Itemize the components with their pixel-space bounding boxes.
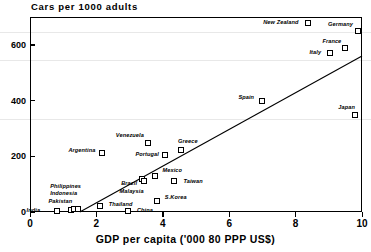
data-point-label: S.Korea <box>165 194 187 200</box>
x-tick-label: 2 <box>86 218 106 229</box>
y-tick-mark <box>30 44 35 45</box>
x-tick-label: 4 <box>153 218 173 229</box>
x-tick-mark <box>362 212 363 217</box>
x-tick-mark <box>96 212 97 217</box>
data-point-marker <box>327 50 333 56</box>
data-point-marker <box>171 178 177 184</box>
x-tick-label: 6 <box>219 218 239 229</box>
data-point-label: Indonesia <box>50 190 77 196</box>
data-point-marker <box>152 173 158 179</box>
y-tick-label: 0 <box>0 207 26 217</box>
y-tick-label: 400 <box>0 96 26 106</box>
x-tick-mark <box>229 212 230 217</box>
data-point-label: Pakistan <box>49 198 73 204</box>
data-point-marker <box>355 28 361 34</box>
data-point-label: Malaysia <box>120 188 144 194</box>
data-point-marker <box>162 152 168 158</box>
data-point-label: Thailand <box>109 201 133 207</box>
data-point-marker <box>178 147 184 153</box>
y-tick-label: 200 <box>0 151 26 161</box>
x-tick-label: 10 <box>352 218 371 229</box>
data-point-label: Philippines <box>50 183 81 189</box>
x-tick-label: 0 <box>20 218 40 229</box>
data-point-marker <box>54 208 60 214</box>
x-tick-mark <box>162 212 163 217</box>
data-point-label: Greece <box>178 138 198 144</box>
data-point-marker <box>125 208 131 214</box>
data-point-marker <box>342 45 348 51</box>
data-point-marker <box>145 140 151 146</box>
y-tick-mark <box>30 156 35 157</box>
data-point-label: Spain <box>238 94 254 100</box>
data-point-marker <box>259 98 265 104</box>
x-axis-title: GDP per capita ('000 80 PPP US$) <box>0 233 371 245</box>
data-point-label: India <box>27 207 41 213</box>
data-point-label: Brazil <box>121 180 137 186</box>
x-tick-mark <box>30 212 31 217</box>
data-point-label: Italy <box>309 49 321 55</box>
data-point-marker <box>154 198 160 204</box>
data-point-marker <box>99 150 105 156</box>
data-point-label: Taiwan <box>183 178 202 184</box>
x-tick-label: 8 <box>286 218 306 229</box>
data-point-marker <box>305 20 311 26</box>
data-point-marker <box>75 206 81 212</box>
chart-figure: Cars per 1000 adults 0200400600 0246810 … <box>0 0 371 252</box>
data-point-marker <box>97 203 103 209</box>
data-point-marker <box>352 112 358 118</box>
data-point-label: Portugal <box>135 151 159 157</box>
chart-title: Cars per 1000 adults <box>31 1 138 12</box>
data-point-label: Germany <box>328 21 353 27</box>
x-tick-mark <box>295 212 296 217</box>
data-point-label: Argentina <box>68 147 95 153</box>
y-tick-mark <box>30 100 35 101</box>
data-point-label: Mexico <box>163 167 183 173</box>
data-point-label: Japan <box>338 104 355 110</box>
data-point-label: Venezuela <box>116 132 144 138</box>
data-point-label: France <box>322 38 341 44</box>
data-point-label: China <box>137 207 153 213</box>
y-tick-label: 600 <box>0 40 26 50</box>
data-point-marker <box>141 178 147 184</box>
data-point-label: New Zealand <box>263 19 298 25</box>
